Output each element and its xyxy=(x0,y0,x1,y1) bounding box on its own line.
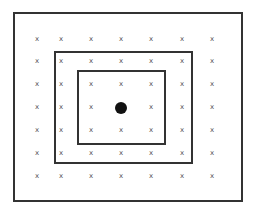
grid-marker: x xyxy=(33,80,41,88)
grid-marker: x xyxy=(117,126,125,134)
grid-marker: x xyxy=(33,172,41,180)
grid-marker: x xyxy=(87,35,95,43)
grid-marker: x xyxy=(117,80,125,88)
grid-marker: x xyxy=(33,57,41,65)
grid-marker: x xyxy=(147,57,155,65)
grid-marker: x xyxy=(178,149,186,157)
grid-marker: x xyxy=(208,80,216,88)
grid-marker: x xyxy=(57,57,65,65)
grid-marker: x xyxy=(208,126,216,134)
grid-marker: x xyxy=(57,172,65,180)
grid-marker: x xyxy=(87,103,95,111)
grid-marker: x xyxy=(117,57,125,65)
grid-marker: x xyxy=(208,35,216,43)
grid-marker: x xyxy=(87,149,95,157)
grid-marker: x xyxy=(57,103,65,111)
grid-marker: x xyxy=(87,80,95,88)
grid-marker: x xyxy=(87,172,95,180)
grid-marker: x xyxy=(33,149,41,157)
grid-marker: x xyxy=(33,103,41,111)
grid-marker: x xyxy=(178,35,186,43)
grid-marker: x xyxy=(208,149,216,157)
grid-marker: x xyxy=(178,57,186,65)
grid-marker: x xyxy=(57,149,65,157)
grid-marker: x xyxy=(178,126,186,134)
grid-marker: x xyxy=(117,35,125,43)
grid-marker: x xyxy=(178,103,186,111)
grid-marker: x xyxy=(147,126,155,134)
grid-marker: x xyxy=(208,172,216,180)
grid-marker: x xyxy=(178,80,186,88)
grid-marker: x xyxy=(178,172,186,180)
grid-marker: x xyxy=(87,57,95,65)
center-dot xyxy=(115,102,127,114)
grid-marker: x xyxy=(33,126,41,134)
grid-marker: x xyxy=(117,149,125,157)
grid-marker: x xyxy=(147,149,155,157)
grid-marker: x xyxy=(57,126,65,134)
grid-marker: x xyxy=(33,35,41,43)
grid-marker: x xyxy=(147,80,155,88)
grid-marker: x xyxy=(117,172,125,180)
grid-marker: x xyxy=(57,35,65,43)
grid-marker: x xyxy=(208,57,216,65)
grid-marker: x xyxy=(147,103,155,111)
grid-marker: x xyxy=(57,80,65,88)
grid-marker: x xyxy=(87,126,95,134)
grid-marker: x xyxy=(147,35,155,43)
grid-marker: x xyxy=(208,103,216,111)
grid-marker: x xyxy=(147,172,155,180)
